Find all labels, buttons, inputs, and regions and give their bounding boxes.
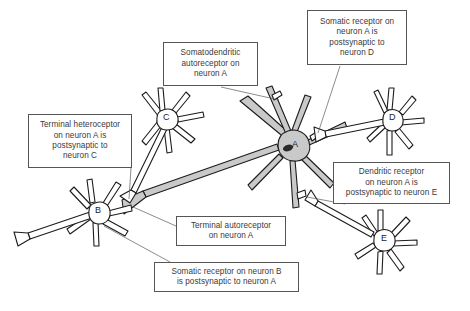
- callout-terminal-autoreceptor: Terminal autoreceptor on neuron A: [176, 216, 286, 246]
- neuron-a-label: A: [292, 139, 298, 149]
- neuron-a-axon: [143, 144, 279, 197]
- neuron-receptor-diagram: .stroke-dark { fill: none; stroke: #1c1c…: [0, 0, 470, 311]
- callout-dendritic-receptor-neuron-e: Dendritic receptor on neuron A is postsy…: [333, 162, 450, 204]
- neuron-b-axon-terminal: [14, 232, 30, 246]
- neuron-a-dendritic-receptor-site: [297, 190, 306, 199]
- neuron-d: [314, 88, 424, 155]
- callout-somatic-receptor-neuron-d: Somatic receptor on neuron A is postsyna…: [307, 10, 407, 65]
- neuron-d-axon-terminal: [314, 127, 326, 142]
- leader-terminal-auto: [133, 207, 176, 226]
- neuron-d-label: D: [389, 112, 396, 122]
- callout-terminal-heteroceptor-neuron-c: Terminal heteroceptor on neuron A is pos…: [28, 114, 132, 168]
- neuron-c-label: C: [163, 112, 170, 122]
- callout-somatic-receptor-neuron-b: Somatic receptor on neuron B is postsyna…: [154, 262, 299, 292]
- neuron-b-label: B: [95, 205, 101, 215]
- neuron-b: [14, 179, 132, 246]
- neuron-e-label: E: [381, 233, 387, 243]
- leader-somatic-d: [318, 66, 340, 133]
- leader-somatic-b: [104, 226, 170, 262]
- callout-somatodendritic-autoreceptor: Somatodendritic autoreceptor on neuron A: [163, 42, 258, 86]
